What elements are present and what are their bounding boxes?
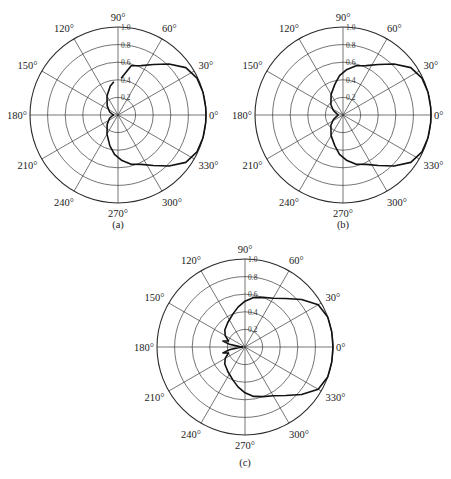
angle-tick-label: 180° bbox=[232, 110, 252, 121]
grid-spoke bbox=[74, 39, 118, 115]
polar-plot-a: 0.20.40.60.81.00°30°60°90°120°150°180°21… bbox=[7, 12, 219, 231]
angle-tick-label: 0° bbox=[336, 342, 345, 353]
angle-tick-label: 240° bbox=[181, 429, 201, 440]
angle-tick-label: 210° bbox=[17, 160, 37, 171]
angle-tick-label: 120° bbox=[54, 23, 74, 34]
angle-tick-label: 0° bbox=[434, 110, 443, 121]
angle-tick-label: 330° bbox=[199, 160, 219, 171]
radial-tick-label: 0.8 bbox=[121, 41, 131, 50]
radial-tick-label: 0.8 bbox=[346, 41, 356, 50]
grid-spoke bbox=[42, 115, 118, 159]
angle-tick-label: 60° bbox=[162, 23, 177, 34]
radial-tick-label: 1.0 bbox=[346, 23, 356, 32]
angle-tick-label: 120° bbox=[279, 23, 299, 34]
angle-tick-label: 150° bbox=[17, 60, 37, 71]
radial-tick-label: 0.8 bbox=[248, 273, 258, 282]
angle-tick-label: 210° bbox=[144, 392, 164, 403]
angle-tick-label: 270° bbox=[235, 440, 255, 451]
angle-tick-label: 330° bbox=[424, 160, 444, 171]
grid-spoke bbox=[245, 347, 289, 423]
polar-plot-b: 0.20.40.60.81.00°30°60°90°120°150°180°21… bbox=[232, 12, 444, 231]
angle-tick-label: 60° bbox=[387, 23, 402, 34]
angle-tick-label: 240° bbox=[54, 197, 74, 208]
polar-figure: 0.20.40.60.81.00°30°60°90°120°150°180°21… bbox=[0, 0, 451, 479]
angle-tick-label: 180° bbox=[134, 342, 154, 353]
grid-spoke bbox=[343, 115, 387, 191]
grid-spoke bbox=[74, 115, 118, 191]
grid-spoke bbox=[245, 347, 321, 391]
angle-tick-label: 300° bbox=[162, 197, 182, 208]
subfigure-caption: (b) bbox=[337, 219, 350, 231]
angle-tick-label: 150° bbox=[242, 60, 262, 71]
subfigure-caption: (c) bbox=[239, 457, 251, 469]
angle-tick-label: 210° bbox=[242, 160, 262, 171]
grid-spoke bbox=[118, 115, 194, 159]
angle-tick-label: 300° bbox=[289, 429, 309, 440]
angle-tick-label: 270° bbox=[333, 208, 353, 219]
angle-tick-label: 270° bbox=[108, 208, 128, 219]
grid-spoke bbox=[169, 303, 245, 347]
radial-tick-label: 1.0 bbox=[121, 23, 131, 32]
polar-plot-c: 0.20.40.60.81.00°30°60°90°120°150°180°21… bbox=[134, 244, 346, 469]
grid-spoke bbox=[42, 71, 118, 115]
angle-tick-label: 150° bbox=[144, 292, 164, 303]
angle-tick-label: 90° bbox=[111, 12, 126, 23]
angle-tick-label: 180° bbox=[7, 110, 27, 121]
radial-tick-label: 0.2 bbox=[248, 325, 258, 334]
grid-spoke bbox=[343, 115, 419, 159]
angle-tick-label: 0° bbox=[209, 110, 218, 121]
angle-tick-label: 60° bbox=[289, 255, 304, 266]
radial-tick-label: 0.2 bbox=[346, 93, 356, 102]
angle-tick-label: 90° bbox=[336, 12, 351, 23]
radial-tick-label: 0.6 bbox=[121, 58, 131, 67]
angle-tick-label: 330° bbox=[326, 392, 346, 403]
grid-spoke bbox=[201, 347, 245, 423]
radial-tick-label: 0.4 bbox=[346, 76, 356, 85]
angle-tick-label: 300° bbox=[387, 197, 407, 208]
grid-spoke bbox=[201, 271, 245, 347]
radial-tick-label: 0.4 bbox=[248, 308, 258, 317]
angle-tick-label: 30° bbox=[424, 60, 439, 71]
grid-spoke bbox=[299, 115, 343, 191]
angle-tick-label: 120° bbox=[181, 255, 201, 266]
grid-spoke bbox=[299, 39, 343, 115]
angle-tick-label: 240° bbox=[279, 197, 299, 208]
subfigure-caption: (a) bbox=[112, 219, 124, 231]
grid-spoke bbox=[118, 115, 162, 191]
radial-tick-label: 1.0 bbox=[248, 255, 258, 264]
angle-tick-label: 30° bbox=[326, 292, 341, 303]
angle-tick-label: 30° bbox=[199, 60, 214, 71]
grid-spoke bbox=[169, 347, 245, 391]
radial-tick-label: 0.2 bbox=[121, 93, 131, 102]
angle-tick-label: 90° bbox=[238, 244, 253, 255]
